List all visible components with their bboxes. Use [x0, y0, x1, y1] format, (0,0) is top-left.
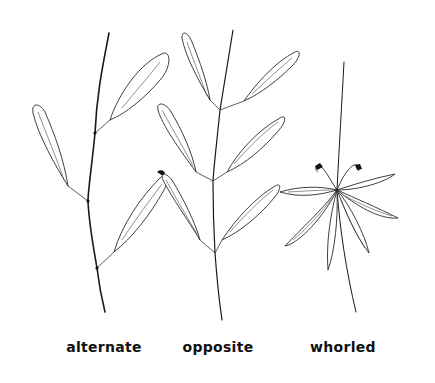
opposite-leaf-2-right [227, 117, 285, 172]
alternate-stem [88, 33, 109, 312]
alternate-node-1 [93, 131, 96, 134]
whorled-leaf-left [280, 187, 337, 195]
opposite-leaf-3-right [222, 185, 280, 240]
alternate-node-3 [95, 266, 98, 269]
opposite-leaf-2-left [158, 104, 196, 172]
alternate-leaf-left [33, 105, 68, 186]
whorled-leaf-curl-left [316, 166, 337, 190]
leaf-arrangement-diagram [0, 0, 435, 383]
label-opposite: opposite [183, 339, 254, 355]
whorled-plant-illustration [280, 62, 398, 312]
alternate-plant-illustration [33, 33, 169, 312]
alternate-node-2 [86, 199, 89, 202]
label-alternate: alternate [66, 339, 142, 355]
label-whorled: whorled [310, 339, 376, 355]
opposite-plant-illustration [158, 30, 300, 320]
